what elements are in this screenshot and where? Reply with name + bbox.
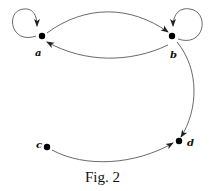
edge-c-d [52, 143, 173, 162]
node-label-a: a [35, 47, 41, 58]
figure-caption: Fig. 2 [85, 169, 120, 185]
directed-graph: a b c d Fig. 2 [0, 0, 213, 191]
node-a [39, 33, 45, 39]
edge-b-b [173, 9, 202, 41]
node-label-c: c [36, 139, 42, 150]
node-c [44, 144, 50, 150]
edge-b-d [177, 42, 194, 137]
edge-a-a [13, 9, 37, 38]
edge-a-b [47, 12, 168, 33]
edge-b-a [47, 42, 168, 58]
node-label-d: d [187, 137, 194, 148]
node-b [169, 33, 175, 39]
node-d [176, 138, 182, 144]
node-label-b: b [170, 49, 177, 60]
